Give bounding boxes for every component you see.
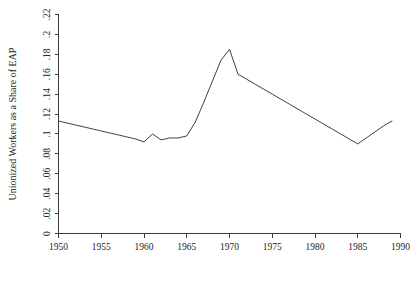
y-tick-label: .1 [42, 130, 52, 137]
series-line-unionized-workers [59, 49, 392, 144]
x-tick-label: 1990 [391, 242, 410, 252]
data-series-group [59, 49, 392, 144]
x-axis: 195019551960196519701975198019851990 [49, 234, 410, 252]
y-tick-label: 0 [42, 231, 52, 236]
x-tick-label: 1970 [220, 242, 239, 252]
y-axis: 0.02.04.06.08.1.12.14.16.18.2.22 [42, 8, 59, 236]
x-tick-label: 1960 [135, 242, 154, 252]
y-tick-label: .14 [42, 88, 52, 100]
line-chart: 0.02.04.06.08.1.12.14.16.18.2.22 1950195… [0, 0, 419, 281]
y-axis-ticks: 0.02.04.06.08.1.12.14.16.18.2.22 [42, 8, 59, 236]
x-tick-label: 1980 [306, 242, 325, 252]
x-axis-ticks: 195019551960196519701975198019851990 [49, 234, 410, 252]
y-tick-label: .16 [42, 68, 52, 80]
y-tick-label: .04 [42, 187, 52, 199]
x-tick-label: 1950 [49, 242, 68, 252]
y-tick-label: .2 [42, 31, 52, 38]
y-tick-label: .06 [42, 168, 52, 180]
x-tick-label: 1965 [177, 242, 196, 252]
y-tick-label: .18 [42, 48, 52, 60]
y-tick-label: .12 [42, 108, 52, 120]
x-tick-label: 1985 [348, 242, 367, 252]
y-tick-label: .22 [42, 8, 52, 20]
y-tick-label: .08 [42, 148, 52, 160]
y-tick-label: .02 [42, 207, 52, 219]
x-tick-label: 1975 [263, 242, 282, 252]
x-tick-label: 1955 [92, 242, 111, 252]
y-axis-title: Unionized Workers as a Share of EAP [7, 47, 18, 200]
chart-figure: 0.02.04.06.08.1.12.14.16.18.2.22 1950195… [0, 0, 419, 281]
